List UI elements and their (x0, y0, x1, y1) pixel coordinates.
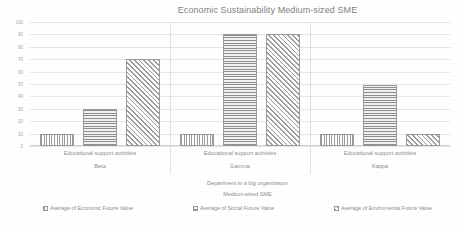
category-activity-label: Educational support activities (170, 149, 310, 157)
y-axis-tick-label: 50 (18, 82, 23, 87)
legend-item[interactable]: Average of Enviromental Future Value (334, 205, 432, 211)
x-axis-subtitle: Medium-sized SME (0, 191, 465, 197)
bar[interactable] (363, 85, 397, 146)
category-label-group: Educational support activitiesBeta (30, 147, 170, 170)
bar[interactable] (223, 34, 257, 146)
legend-label: Average of Enviromental Future Value (341, 205, 432, 211)
bar[interactable] (320, 134, 354, 146)
bar[interactable] (83, 109, 117, 146)
legend-label: Average of Social Future Value (200, 205, 274, 211)
y-axis-tick-label: 40 (18, 94, 23, 99)
legend-swatch-icon (43, 206, 48, 211)
y-axis-tick-label: 90 (18, 32, 23, 37)
y-axis-tick-label: 80 (18, 44, 23, 49)
y-axis-tick-label: 70 (18, 57, 23, 62)
chart-title: Economic Sustainability Medium-sized SME (0, 5, 465, 15)
y-axis-tick-labels: 1009080706050403020100 (0, 22, 26, 146)
legend-label: Average of Economic Future Value (50, 205, 133, 211)
bar-group (170, 22, 310, 146)
bar-group (30, 22, 170, 146)
category-axis-labels: Educational support activitiesBetaEducat… (30, 147, 450, 170)
category-activity-label: Educational support activities (30, 149, 170, 157)
y-axis-tick-label: 30 (18, 106, 23, 111)
y-axis-tick-label: 0 (20, 144, 23, 149)
category-name-label: Beta (30, 162, 170, 170)
y-axis-tick-label: 20 (18, 119, 23, 124)
bar-group (310, 22, 450, 146)
category-name-label: Kappa (310, 162, 450, 170)
bar[interactable] (406, 134, 440, 146)
y-axis-tick-label: 100 (15, 20, 23, 25)
category-label-group: Educational support activitiesGamma (170, 147, 310, 170)
y-axis-tick-label: 60 (18, 69, 23, 74)
bar[interactable] (126, 59, 160, 146)
legend-swatch-icon (334, 206, 339, 211)
legend-item[interactable]: Average of Economic Future Value (43, 205, 133, 211)
legend-swatch-icon (193, 206, 198, 211)
bar-groups (30, 22, 450, 146)
bar[interactable] (40, 134, 74, 146)
plot-area (30, 22, 450, 146)
y-axis-tick-label: 10 (18, 131, 23, 136)
category-activity-label: Educational support activities (310, 149, 450, 157)
category-label-group: Educational support activitiesKappa (310, 147, 450, 170)
bar[interactable] (266, 34, 300, 146)
economic-sustainability-chart: Economic Sustainability Medium-sized SME… (0, 0, 465, 228)
category-name-label: Gamma (170, 162, 310, 170)
bar[interactable] (180, 134, 214, 146)
legend-item[interactable]: Average of Social Future Value (193, 205, 274, 211)
chart-legend: Average of Economic Future ValueAverage … (0, 205, 465, 211)
x-axis-title: Department in a big organization (0, 180, 465, 186)
